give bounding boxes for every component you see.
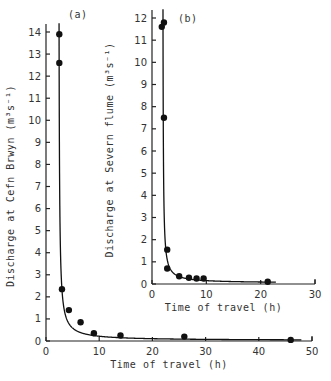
- y-tick-label: 0: [141, 279, 147, 290]
- y-tick-label: 5: [35, 225, 41, 236]
- discharge-recession-figure: 0123456789101112131401020304050(a)Time o…: [0, 0, 331, 381]
- x-axis-title: Time of travel (h): [165, 302, 282, 313]
- y-tick-label: 7: [141, 123, 147, 134]
- y-tick-label: 13: [28, 49, 41, 60]
- data-point: [77, 319, 83, 325]
- panel-b-inset-chart: 01234567891011120102030(b)Time of travel…: [104, 4, 330, 314]
- x-tick-label: 30: [309, 289, 322, 300]
- y-tick-label: 5: [141, 168, 147, 179]
- x-tick-label: 0: [149, 289, 155, 300]
- panel-label: (a): [68, 9, 88, 20]
- y-tick-label: 8: [35, 159, 41, 170]
- y-axis-title: Discharge at Severn flume (m³s⁻¹): [104, 42, 115, 257]
- y-axis-title: Discharge at Cefn Brwyn (m³s⁻¹): [5, 85, 16, 287]
- data-point: [117, 332, 123, 338]
- y-tick-label: 12: [134, 13, 147, 24]
- x-tick-label: 20: [254, 289, 267, 300]
- x-tick-label: 40: [252, 346, 265, 357]
- data-point: [200, 275, 206, 281]
- x-tick-label: 0: [43, 346, 49, 357]
- y-tick-label: 10: [28, 115, 41, 126]
- x-tick-label: 10: [200, 289, 213, 300]
- y-tick-label: 9: [141, 79, 147, 90]
- y-tick-label: 1: [35, 313, 41, 324]
- x-tick-label: 30: [199, 346, 212, 357]
- y-tick-label: 6: [141, 146, 147, 157]
- x-axis-title: Time of travel (h): [110, 359, 227, 370]
- data-point: [176, 273, 182, 279]
- x-tick-label: 20: [146, 346, 159, 357]
- y-tick-label: 7: [35, 181, 41, 192]
- y-tick-label: 8: [141, 101, 147, 112]
- data-point: [91, 330, 97, 336]
- data-point: [288, 337, 294, 343]
- x-tick-label: 50: [306, 346, 319, 357]
- y-tick-label: 0: [35, 336, 41, 347]
- y-tick-label: 4: [141, 190, 147, 201]
- y-tick-label: 12: [28, 71, 41, 82]
- y-tick-label: 14: [28, 27, 41, 38]
- data-point: [193, 275, 199, 281]
- data-point: [56, 31, 62, 37]
- data-point: [265, 279, 271, 285]
- y-tick-label: 2: [35, 291, 41, 302]
- data-point: [56, 60, 62, 66]
- y-tick-label: 11: [134, 35, 147, 46]
- y-tick-label: 4: [35, 247, 41, 258]
- y-tick-label: 3: [141, 212, 147, 223]
- data-point: [66, 307, 72, 313]
- data-point: [161, 19, 167, 25]
- y-tick-label: 10: [134, 57, 147, 68]
- x-tick-label: 10: [93, 346, 106, 357]
- data-point: [164, 265, 170, 271]
- y-tick-label: 9: [35, 137, 41, 148]
- data-point: [186, 275, 192, 281]
- y-tick-label: 1: [141, 256, 147, 267]
- data-point: [59, 286, 65, 292]
- y-tick-label: 2: [141, 234, 147, 245]
- y-tick-label: 3: [35, 269, 41, 280]
- y-tick-label: 11: [28, 93, 41, 104]
- panel-label: (b): [178, 13, 198, 24]
- data-point: [164, 246, 170, 252]
- data-point: [161, 115, 167, 121]
- y-tick-label: 6: [35, 203, 41, 214]
- data-point: [181, 333, 187, 339]
